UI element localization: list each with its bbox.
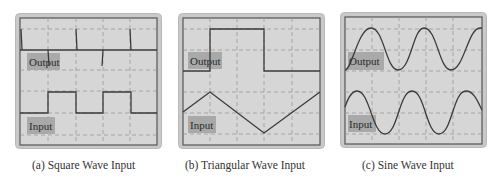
oscilloscope-screen-triangle: Output Input — [178, 13, 325, 149]
caption-a: (a) Square Wave Input — [32, 159, 135, 171]
input-label: Input — [349, 118, 372, 130]
output-label: Output — [349, 55, 380, 67]
output-label: Output — [29, 56, 60, 68]
output-label: Output — [190, 55, 221, 67]
oscilloscope-panel-sine: Output Input — [340, 12, 487, 148]
oscilloscope-panel-square: Output Input — [15, 13, 162, 149]
caption-c: (c) Sine Wave Input — [362, 159, 454, 171]
caption-b: (b) Triangular Wave Input — [185, 159, 305, 171]
input-label: Input — [190, 119, 213, 131]
input-label: Input — [29, 120, 52, 132]
oscilloscope-screen-sine: Output Input — [340, 12, 487, 148]
oscilloscope-panel-triangle: Output Input — [178, 13, 325, 149]
oscilloscope-screen-square: Output Input — [15, 13, 162, 149]
